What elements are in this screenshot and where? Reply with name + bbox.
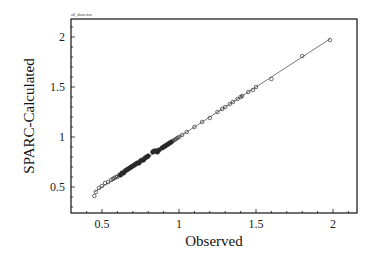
data-point (146, 154, 150, 158)
x-tick-label: 1 (176, 217, 182, 231)
x-axis: 0.511.52 (87, 209, 349, 231)
x-tick-label: 0.5 (95, 217, 110, 231)
data-point (93, 194, 97, 198)
scatter-chart: all_data.mo 0.511.52 0.511.52 Observed S… (0, 0, 377, 257)
y-tick-label: 0.5 (50, 180, 65, 194)
axes-frame (71, 19, 357, 213)
data-point (270, 77, 274, 81)
corner-label: all_data.mo (71, 12, 92, 17)
y-tick-label: 1.5 (50, 80, 65, 94)
y-axis-title: SPARC-Calculated (21, 58, 37, 174)
plot-area (93, 38, 332, 198)
y-tick-label: 2 (59, 30, 65, 44)
x-tick-label: 1.5 (249, 217, 264, 231)
x-tick-label: 2 (330, 217, 336, 231)
x-axis-title: Observed (185, 233, 243, 249)
y-tick-label: 1 (59, 130, 65, 144)
